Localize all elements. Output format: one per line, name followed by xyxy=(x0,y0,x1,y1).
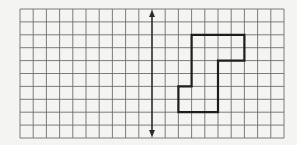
reflection-grid-figure xyxy=(0,0,297,145)
arrow-down-icon xyxy=(149,130,155,137)
arrow-up-icon xyxy=(149,10,155,17)
